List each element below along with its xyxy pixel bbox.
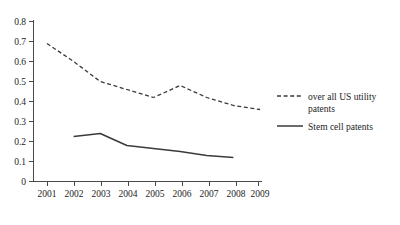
x-tick-label: 2001 — [38, 189, 57, 199]
x-tick-label: 2009 — [251, 189, 270, 199]
legend-label-overall-us-utility-patents-line1: over all US utility — [308, 92, 377, 102]
y-tick-label: 0.1 — [14, 157, 26, 167]
line-chart: 0.8 0.7 0.6 0.5 0.4 0.3 0.2 0.1 0 2001 2… — [0, 0, 400, 225]
y-tick-label: 0.4 — [14, 97, 26, 107]
x-tick-label: 2005 — [146, 189, 165, 199]
x-axis-tick-labels: 2001 2002 2003 2004 2005 2006 2007 2008 … — [38, 189, 270, 199]
series-line-stem-cell-patents — [74, 134, 234, 158]
chart-legend: over all US utility patents Stem cell pa… — [277, 92, 377, 132]
x-tick-label: 2004 — [119, 189, 138, 199]
y-tick-label: 0.6 — [14, 57, 26, 67]
y-tick-label: 0.3 — [14, 117, 26, 127]
y-tick-label: 0 — [21, 177, 26, 187]
x-axis-ticks — [48, 182, 259, 187]
x-tick-label: 2002 — [65, 189, 84, 199]
y-tick-label: 0.7 — [14, 37, 26, 47]
y-tick-label: 0.8 — [14, 17, 26, 27]
x-tick-label: 2008 — [227, 189, 246, 199]
y-tick-label: 0.5 — [14, 77, 26, 87]
x-tick-label: 2006 — [173, 189, 192, 199]
y-tick-label: 0.2 — [14, 137, 26, 147]
x-tick-label: 2003 — [92, 189, 111, 199]
y-axis-ticks — [29, 22, 34, 182]
chart-figure: 0.8 0.7 0.6 0.5 0.4 0.3 0.2 0.1 0 2001 2… — [0, 0, 400, 225]
y-axis-tick-labels: 0.8 0.7 0.6 0.5 0.4 0.3 0.2 0.1 0 — [14, 17, 26, 187]
x-tick-label: 2007 — [200, 189, 219, 199]
legend-label-overall-us-utility-patents-line2: patents — [308, 104, 335, 114]
legend-label-stem-cell-patents: Stem cell patents — [308, 122, 373, 132]
series-line-overall-us-utility-patents — [47, 44, 260, 110]
